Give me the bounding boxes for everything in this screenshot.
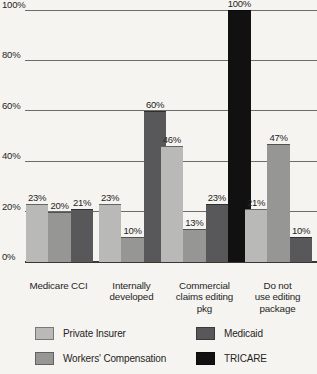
x-category-label-line: Commercial <box>165 280 244 291</box>
x-category-label-line: developed <box>92 291 171 302</box>
bar-value-label: 21% <box>240 197 273 208</box>
y-tick-label: 60% <box>2 100 32 111</box>
x-category-label-line: Do not <box>238 280 317 291</box>
bar <box>290 237 313 262</box>
legend-label: TRICARE <box>224 353 267 364</box>
bar-cap <box>206 204 229 205</box>
x-category-label-line: package <box>238 303 317 314</box>
bar <box>26 204 49 262</box>
bar-cap <box>48 212 71 213</box>
x-category-label: Do notuse editingpackage <box>238 280 317 314</box>
legend-swatch <box>35 327 54 340</box>
legend-swatch <box>196 352 215 365</box>
x-category-label-line: Medicare CCI <box>19 280 98 291</box>
bar-cap <box>290 237 313 238</box>
plot-area: 0%20%40%60%80%100% 23%20%21%23%10%60%46%… <box>0 0 317 275</box>
y-tick-label: 40% <box>2 150 32 161</box>
bar-cap <box>267 144 290 145</box>
bar-value-label: 47% <box>262 132 295 143</box>
legend-swatch <box>35 352 54 365</box>
bar-cap <box>183 229 206 230</box>
x-category-label-line: claims editing <box>165 291 244 302</box>
gridline-100 <box>25 10 317 11</box>
bar-cap <box>144 111 167 112</box>
x-category-label: Internallydeveloped <box>92 280 171 303</box>
gridline-60 <box>25 110 317 111</box>
bar-value-label: 100% <box>223 0 256 9</box>
x-axis-category-labels: Medicare CCIInternallydevelopedCommercia… <box>0 276 317 324</box>
bar-value-label: 10% <box>116 225 149 236</box>
bar <box>183 229 206 262</box>
bar-cap <box>99 204 122 205</box>
bar <box>245 209 268 262</box>
bar-value-label: 46% <box>156 134 189 145</box>
x-category-label: Medicare CCI <box>19 280 98 291</box>
bar-value-label: 10% <box>285 225 317 236</box>
y-tick-label: 100% <box>2 0 32 10</box>
legend-label: Medicaid <box>224 328 263 339</box>
bar <box>161 146 184 262</box>
gridline-80 <box>25 60 317 61</box>
x-category-label-line: use editing <box>238 291 317 302</box>
grouped-bar-chart: 0%20%40%60%80%100% 23%20%21%23%10%60%46%… <box>0 0 317 374</box>
bar-cap <box>245 209 268 210</box>
legend-label: Private Insurer <box>63 328 126 339</box>
bar-cap <box>161 146 184 147</box>
x-category-label-line: pkg <box>165 303 244 314</box>
x-category-label-line: Internally <box>92 280 171 291</box>
bar-value-label: 60% <box>139 99 172 110</box>
legend-label: Workers' Compensation <box>63 353 166 364</box>
bar <box>206 204 229 262</box>
legend-item: Workers' Compensation <box>35 352 166 365</box>
bar-cap <box>228 10 251 11</box>
bar-value-label: 13% <box>178 217 211 228</box>
y-tick-label: 80% <box>2 49 32 60</box>
x-category-label: Commercialclaims editingpkg <box>165 280 244 314</box>
bar <box>48 212 71 262</box>
bar <box>71 209 94 262</box>
bar-value-label: 23% <box>94 192 127 203</box>
chart-legend: Private InsurerMedicaidWorkers' Compensa… <box>0 325 317 374</box>
legend-swatch <box>196 327 215 340</box>
legend-item: Medicaid <box>196 327 263 340</box>
bar-cap <box>121 237 144 238</box>
bar-value-label: 23% <box>201 192 234 203</box>
legend-item: Private Insurer <box>35 327 126 340</box>
legend-item: TRICARE <box>196 352 267 365</box>
bar <box>121 237 144 262</box>
